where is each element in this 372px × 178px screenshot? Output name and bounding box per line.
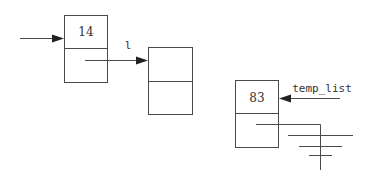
- arrowhead-icon: [279, 95, 291, 103]
- list-node-2: [149, 48, 193, 115]
- linked-list-diagram: 14 83 l temp_list: [0, 0, 372, 178]
- list-node-1: 14: [65, 16, 108, 83]
- arrowhead-icon: [136, 57, 148, 65]
- node-1-value: 14: [78, 25, 94, 39]
- list-node-3: 83: [236, 81, 279, 148]
- arrowhead-icon: [52, 35, 64, 43]
- head-pointer-arrow: [20, 35, 64, 43]
- l-pointer-label: l: [125, 39, 132, 52]
- node-3-value: 83: [249, 91, 264, 105]
- temp-list-label: temp_list: [292, 82, 352, 95]
- temp-list-pointer-arrow: temp_list: [279, 82, 352, 103]
